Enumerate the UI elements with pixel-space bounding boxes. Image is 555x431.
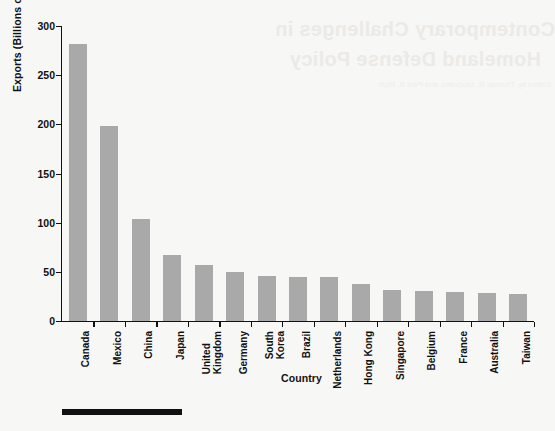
y-tick-label: 300 (30, 21, 55, 31)
x-tick-mark (471, 322, 472, 327)
y-tick-label: 250 (30, 70, 55, 80)
bar (226, 272, 244, 321)
bar (509, 294, 527, 321)
y-axis-title: Exports (Billions of Dollars) (11, 0, 23, 92)
bar (478, 293, 496, 321)
bar (446, 292, 464, 321)
x-category-label: Hong Kong (364, 331, 375, 385)
y-tick-label: 100 (30, 218, 55, 228)
y-tick-label: 0 (30, 316, 55, 326)
x-category-label: Mexico (113, 331, 124, 365)
x-category-label: SouthKorea (265, 331, 286, 359)
x-category-label-line: South (265, 331, 276, 359)
x-category-label: Australia (490, 331, 501, 374)
y-tick-mark (56, 174, 61, 175)
bar (195, 265, 213, 321)
x-category-label-line: Singapore (396, 331, 407, 380)
x-category-label: Netherlands (333, 331, 344, 389)
bar (320, 277, 338, 321)
x-category-label: Taiwan (522, 331, 533, 364)
x-category-label-line: Brazil (302, 331, 313, 358)
x-category-label: Germany (239, 331, 250, 374)
y-tick-label: 50 (30, 267, 55, 277)
x-tick-mark (93, 322, 94, 327)
x-category-label-line: Canada (81, 331, 92, 367)
x-category-label-line: Korea (275, 331, 286, 359)
bar (69, 44, 87, 321)
x-tick-mark (440, 322, 441, 327)
bar (163, 255, 181, 321)
bar (258, 276, 276, 321)
x-tick-mark (251, 322, 252, 327)
x-tick-mark (125, 322, 126, 327)
bar (352, 284, 370, 321)
horizontal-rule (62, 409, 182, 415)
x-tick-mark (345, 322, 346, 327)
x-category-label: China (144, 331, 155, 359)
y-tick-label: 200 (30, 119, 55, 129)
x-category-label: Japan (176, 331, 187, 360)
bar (289, 277, 307, 321)
x-category-label-line: China (144, 331, 155, 359)
x-category-label-line: United (202, 331, 213, 374)
x-axis-line (61, 321, 534, 322)
y-tick-mark (56, 75, 61, 76)
x-tick-mark (188, 322, 189, 327)
y-tick-label: 150 (30, 169, 55, 179)
x-tick-mark (534, 322, 535, 327)
x-category-label: Singapore (396, 331, 407, 380)
bar (132, 219, 150, 321)
x-category-label: Belgium (427, 331, 438, 370)
x-category-label: Canada (81, 331, 92, 367)
bar (100, 126, 118, 321)
bar (383, 290, 401, 321)
x-tick-mark (314, 322, 315, 327)
x-category-label: Brazil (302, 331, 313, 358)
y-axis-tick-labels: 050100150200250300 (30, 0, 55, 431)
y-tick-mark (56, 272, 61, 273)
x-category-label-line: Taiwan (522, 331, 533, 364)
x-tick-mark (282, 322, 283, 327)
x-category-label: France (459, 331, 470, 364)
x-tick-mark (377, 322, 378, 327)
x-category-label-line: Mexico (113, 331, 124, 365)
x-tick-mark (503, 322, 504, 327)
x-tick-mark (156, 322, 157, 327)
plot-area (62, 26, 534, 321)
y-tick-mark (56, 26, 61, 27)
bar (415, 291, 433, 321)
y-tick-mark (56, 223, 61, 224)
x-category-label-line: Australia (490, 331, 501, 374)
x-tick-mark (408, 322, 409, 327)
x-axis-title: Country (281, 372, 322, 384)
x-category-label-line: Kingdom (212, 331, 223, 374)
x-category-label-line: Belgium (427, 331, 438, 370)
x-category-label-line: Japan (176, 331, 187, 360)
x-category-label-line: Netherlands (333, 331, 344, 389)
x-category-label: UnitedKingdom (202, 331, 223, 374)
y-tick-mark (56, 124, 61, 125)
x-category-label-line: Germany (239, 331, 250, 374)
x-tick-mark (219, 322, 220, 327)
x-category-label-line: France (459, 331, 470, 364)
x-category-label-line: Hong Kong (364, 331, 375, 385)
y-tick-mark (56, 321, 61, 322)
